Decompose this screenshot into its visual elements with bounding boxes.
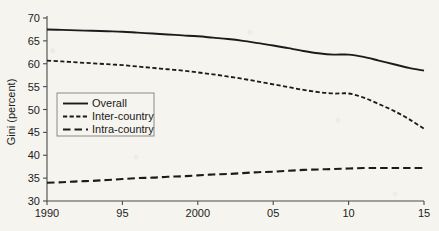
legend-group: OverallInter-countryIntra-country [57,93,154,136]
y-tick-label: 35 [28,172,40,184]
y-tick-label: 65 [28,35,40,47]
y-tick-label: 40 [28,149,40,161]
y-tick-label: 55 [28,81,40,93]
x-axis-tick-labels: 1990952000051015 [35,207,430,219]
legend-label-intra-country: Intra-country [92,123,154,135]
x-tick-label: 95 [116,207,128,219]
legend-label-inter-country: Inter-country [92,110,154,122]
x-tick-label: 05 [267,207,279,219]
chart-figure: 303540455055606570 1990952000051015 Over… [0,0,439,231]
legend-label-overall: Overall [92,97,127,109]
y-tick-label: 70 [28,12,40,24]
x-tick-label: 15 [418,207,430,219]
series-intra-country [47,168,424,183]
x-tick-label: 1990 [35,207,59,219]
gini-line-chart: 303540455055606570 1990952000051015 Over… [0,0,439,231]
x-tick-label: 2000 [186,207,210,219]
x-tick-label: 10 [342,207,354,219]
y-tick-label: 45 [28,126,40,138]
y-tick-label: 60 [28,58,40,70]
y-axis-tick-labels: 303540455055606570 [28,12,40,207]
y-axis-title: Gini (percent) [5,79,17,146]
y-tick-label: 30 [28,195,40,207]
y-tick-label: 50 [28,104,40,116]
